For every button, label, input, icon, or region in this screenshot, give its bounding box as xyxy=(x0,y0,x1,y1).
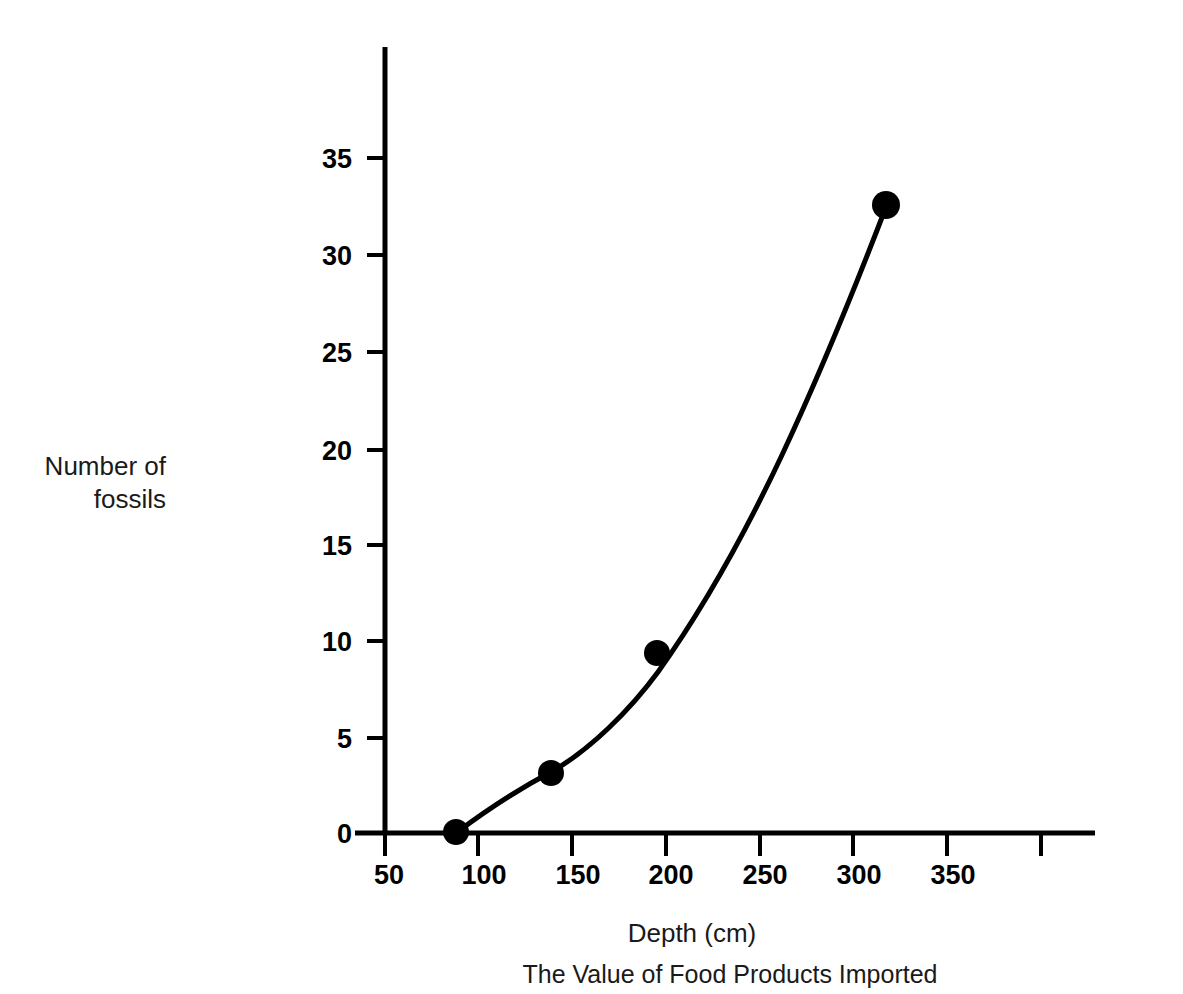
y-axis-ticks xyxy=(367,158,385,833)
x-tick-label-250: 250 xyxy=(742,860,787,890)
y-tick-label-15: 15 xyxy=(322,531,352,561)
data-point-1 xyxy=(443,819,469,845)
y-axis-title-line-1: Number of xyxy=(45,451,167,481)
data-point-2 xyxy=(538,760,564,786)
data-points xyxy=(443,191,900,845)
x-axis-ticks xyxy=(385,833,1041,856)
x-tick-label-350: 350 xyxy=(930,860,975,890)
trend-curve xyxy=(456,207,886,833)
y-tick-label-20: 20 xyxy=(322,436,352,466)
fossils-vs-depth-chart: 0 5 10 15 20 25 30 35 50 100 150 200 250 xyxy=(0,0,1183,994)
figure-caption: The Value of Food Products Imported xyxy=(522,960,937,988)
y-tick-label-5: 5 xyxy=(337,724,352,754)
x-tick-label-300: 300 xyxy=(836,860,881,890)
x-tick-label-200: 200 xyxy=(648,860,693,890)
y-axis-title-line-2: fossils xyxy=(94,484,166,514)
data-point-3 xyxy=(644,640,670,666)
y-axis-tick-labels: 0 5 10 15 20 25 30 35 xyxy=(322,144,352,849)
data-point-4 xyxy=(872,191,900,219)
y-tick-label-25: 25 xyxy=(322,338,352,368)
x-axis-tick-labels: 50 100 150 200 250 300 350 xyxy=(374,860,976,890)
chart-page: 0 5 10 15 20 25 30 35 50 100 150 200 250 xyxy=(0,0,1183,994)
y-tick-label-10: 10 xyxy=(322,627,352,657)
x-tick-label-100: 100 xyxy=(461,860,506,890)
x-tick-label-150: 150 xyxy=(555,860,600,890)
y-tick-label-30: 30 xyxy=(322,241,352,271)
x-tick-label-50: 50 xyxy=(374,860,404,890)
y-tick-label-0: 0 xyxy=(337,819,352,849)
y-tick-label-35: 35 xyxy=(322,144,352,174)
y-axis-title: Number of fossils xyxy=(45,451,167,514)
x-axis-title: Depth (cm) xyxy=(628,918,757,948)
